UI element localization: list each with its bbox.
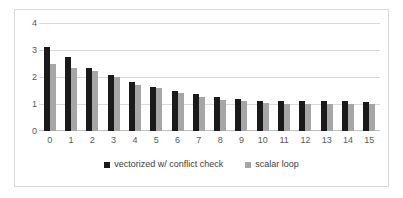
x-axis-tick-15: 15 xyxy=(359,133,380,147)
bar-group-1 xyxy=(60,23,81,131)
x-axis-tick-8: 8 xyxy=(210,133,231,147)
x-axis-tick-6: 6 xyxy=(167,133,188,147)
bar-group-9 xyxy=(231,23,252,131)
bar-group-13 xyxy=(316,23,337,131)
bar-series1-cat9 xyxy=(241,101,247,131)
x-axis-tick-2: 2 xyxy=(82,133,103,147)
bar-group-2 xyxy=(82,23,103,131)
bar-series1-cat7 xyxy=(199,97,205,131)
legend-item-1[interactable]: scalar loop xyxy=(245,160,299,169)
bar-group-10 xyxy=(252,23,273,131)
x-axis-tick-9: 9 xyxy=(231,133,252,147)
plot-area xyxy=(39,23,380,131)
legend-item-0[interactable]: vectorized w/ conflict check xyxy=(104,160,223,169)
x-axis-tick-0: 0 xyxy=(39,133,60,147)
bar-group-15 xyxy=(359,23,380,131)
bar-series1-cat4 xyxy=(135,85,141,131)
bar-group-12 xyxy=(295,23,316,131)
bar-series1-cat1 xyxy=(71,68,77,131)
bar-series1-cat10 xyxy=(263,103,269,131)
x-axis-tick-1: 1 xyxy=(60,133,81,147)
bar-series1-cat13 xyxy=(327,104,333,131)
y-axis-tick-4: 4 xyxy=(32,19,37,28)
y-axis-tick-labels: 43210 xyxy=(21,23,37,131)
chart-frame: 43210 0123456789101112131415 vectorized … xyxy=(14,9,389,187)
x-axis-tick-11: 11 xyxy=(273,133,294,147)
x-axis-tick-7: 7 xyxy=(188,133,209,147)
x-axis-tick-13: 13 xyxy=(316,133,337,147)
x-axis-tick-4: 4 xyxy=(124,133,145,147)
bar-series1-cat5 xyxy=(156,88,162,131)
bar-group-0 xyxy=(39,23,60,131)
bar-group-3 xyxy=(103,23,124,131)
bar-group-11 xyxy=(273,23,294,131)
bar-series1-cat0 xyxy=(50,64,56,132)
y-axis-tick-1: 1 xyxy=(32,100,37,109)
bar-series1-cat8 xyxy=(220,100,226,131)
legend-label-0: vectorized w/ conflict check xyxy=(114,160,223,169)
bar-series1-cat15 xyxy=(369,104,375,131)
bar-group-14 xyxy=(337,23,358,131)
x-axis-tick-10: 10 xyxy=(252,133,273,147)
y-axis-tick-2: 2 xyxy=(32,73,37,82)
bar-groups xyxy=(39,23,380,131)
square-marker-black xyxy=(104,162,110,168)
x-axis-tick-3: 3 xyxy=(103,133,124,147)
square-marker-gray xyxy=(245,162,251,168)
chart-plot-wrapper: 43210 0123456789101112131415 vectorized … xyxy=(15,10,388,186)
bar-group-8 xyxy=(210,23,231,131)
bar-series1-cat2 xyxy=(92,71,98,131)
chart-legend: vectorized w/ conflict checkscalar loop xyxy=(15,160,388,169)
bar-series1-cat3 xyxy=(114,77,120,131)
bar-group-5 xyxy=(146,23,167,131)
y-axis-tick-3: 3 xyxy=(32,46,37,55)
bar-series1-cat6 xyxy=(178,93,184,131)
bar-series1-cat14 xyxy=(348,104,354,131)
bar-group-7 xyxy=(188,23,209,131)
bar-series1-cat11 xyxy=(284,104,290,131)
y-axis-tick-0: 0 xyxy=(32,127,37,136)
x-axis-tick-5: 5 xyxy=(146,133,167,147)
x-axis-tick-14: 14 xyxy=(337,133,358,147)
bar-group-6 xyxy=(167,23,188,131)
bar-group-4 xyxy=(124,23,145,131)
bar-series1-cat12 xyxy=(305,104,311,131)
x-axis-tick-12: 12 xyxy=(295,133,316,147)
x-axis-tick-labels: 0123456789101112131415 xyxy=(39,133,380,147)
legend-label-1: scalar loop xyxy=(255,160,299,169)
